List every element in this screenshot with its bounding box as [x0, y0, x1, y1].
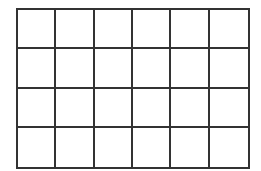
empty-grid — [16, 8, 250, 169]
grid-cell — [18, 128, 56, 167]
grid-cell — [56, 10, 94, 49]
grid-cell — [18, 49, 56, 88]
grid-cell — [56, 89, 94, 128]
grid-cell — [171, 10, 209, 49]
grid-cell — [210, 49, 248, 88]
grid-cell — [210, 89, 248, 128]
grid-cell — [171, 49, 209, 88]
grid-cell — [95, 89, 133, 128]
grid-cell — [133, 128, 171, 167]
grid-cell — [18, 89, 56, 128]
grid-cell — [171, 89, 209, 128]
grid-cell — [56, 128, 94, 167]
grid-cell — [95, 49, 133, 88]
grid-cell — [133, 89, 171, 128]
grid-cell — [95, 10, 133, 49]
grid-cell — [56, 49, 94, 88]
grid-cell — [210, 128, 248, 167]
grid-cell — [133, 10, 171, 49]
grid-cell — [95, 128, 133, 167]
grid-cell — [210, 10, 248, 49]
grid-cell — [133, 49, 171, 88]
grid-cell — [171, 128, 209, 167]
grid-cell — [18, 10, 56, 49]
